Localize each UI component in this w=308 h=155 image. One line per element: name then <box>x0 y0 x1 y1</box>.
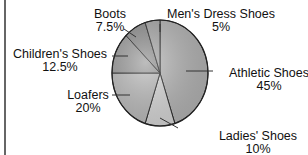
slice-label-name: Children's Shoes <box>13 47 107 61</box>
slice-label-name: Athletic Shoes <box>229 66 308 80</box>
slice-label-name: Men's Dress Shoes <box>167 7 275 21</box>
slice-label-name: Boots <box>94 7 126 21</box>
slice-label-percent: 20% <box>75 101 100 115</box>
slice-label-percent: 45% <box>256 79 281 93</box>
slice-label-percent: 7.5% <box>96 20 125 34</box>
slice-label-percent: 5% <box>212 20 230 34</box>
pie-chart: Athletic Shoes45%Ladies' Shoes10%Loafers… <box>0 0 308 155</box>
pie-shading <box>112 20 208 126</box>
slice-label-percent: 10% <box>245 142 270 155</box>
slice-label-name: Loafers <box>67 88 109 102</box>
slice-label-name: Ladies' Shoes <box>219 129 297 143</box>
slice-label-percent: 12.5% <box>42 60 77 74</box>
